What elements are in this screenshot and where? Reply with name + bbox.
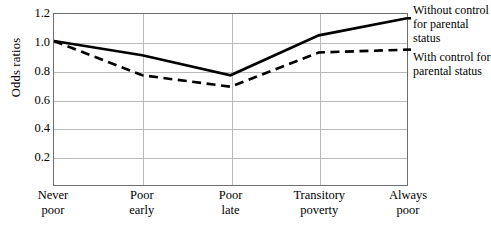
- legend-label-with-control: With control for parental status: [413, 51, 491, 79]
- y-tick-label: 0.6: [24, 93, 50, 106]
- plot-lines: [54, 14, 407, 185]
- x-tick-label-line: Transitory: [293, 188, 345, 202]
- x-tick-label-line: Never: [38, 188, 69, 202]
- y-tick-label: 0.2: [24, 151, 50, 164]
- x-tick-label-line: Always: [389, 188, 427, 202]
- legend-with-line1: With control: [413, 50, 474, 64]
- x-tick-label-line: poor: [353, 203, 463, 218]
- plot-area: [53, 13, 408, 186]
- x-axis-tick-labels: NeverpoorPoorearlyPoorlateTransitorypove…: [53, 188, 408, 226]
- y-tick-label: 1.0: [24, 36, 50, 49]
- y-tick-label: 1.2: [24, 7, 50, 20]
- x-tick-label-line: Poor: [130, 188, 154, 202]
- legend-without-line1: Without: [413, 3, 452, 17]
- y-tick-label: 0.4: [24, 122, 50, 135]
- x-tick-label: Alwayspoor: [353, 188, 463, 218]
- series-line-without-control: [54, 18, 407, 75]
- legend-with-line3: status: [455, 64, 482, 78]
- x-tick-label-line: Poor: [219, 188, 243, 202]
- y-tick-label: 0.8: [24, 64, 50, 77]
- series-line-with-control: [54, 41, 407, 87]
- legend-label-without-control: Without control for parental status: [413, 4, 491, 46]
